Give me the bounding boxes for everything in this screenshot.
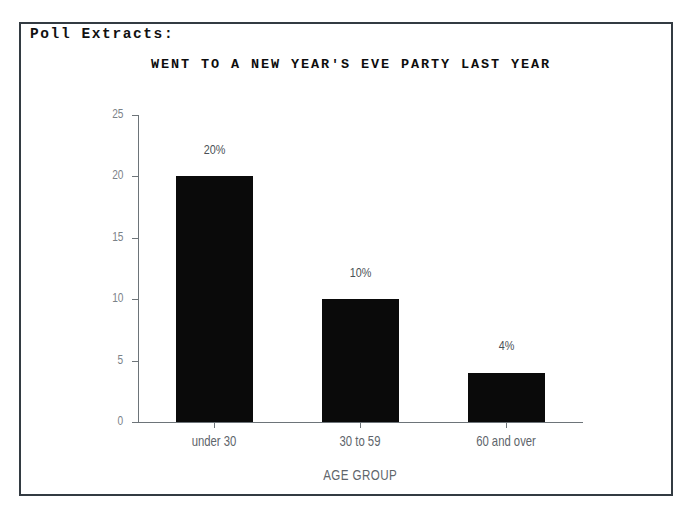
y-tick-label-15: 15 <box>112 229 123 244</box>
y-tick-label-0: 0 <box>117 413 123 428</box>
bar-under-30[interactable] <box>176 176 253 422</box>
y-tick-0: 0 <box>132 422 138 423</box>
x-tick-under-30 <box>214 422 215 428</box>
bar-value-30-to-59: 10% <box>330 265 392 280</box>
page-title: Poll Extracts: <box>30 26 174 42</box>
x-label-under-30: under 30 <box>159 433 268 449</box>
y-tick-5: 5 <box>132 361 138 362</box>
x-axis-title-text: AGE GROUP <box>324 467 398 483</box>
x-label-30-to-59: 30 to 59 <box>305 433 414 449</box>
x-label-60-and-over: 60 and over <box>451 433 560 449</box>
bar-value-60-and-over: 4% <box>476 338 538 353</box>
y-tick-25: 25 <box>132 115 138 116</box>
y-tick-15: 15 <box>132 238 138 239</box>
x-tick-60-and-over <box>506 422 507 428</box>
bar-value-under-30: 20% <box>184 142 246 157</box>
y-tick-label-25: 25 <box>112 106 123 121</box>
y-axis-line <box>138 115 139 422</box>
x-axis-title: AGE GROUP <box>138 467 583 483</box>
x-tick-30-to-59 <box>360 422 361 428</box>
y-tick-10: 10 <box>132 299 138 300</box>
y-tick-20: 20 <box>132 176 138 177</box>
y-tick-label-5: 5 <box>117 352 123 367</box>
bar-60-and-over[interactable] <box>468 373 545 422</box>
chart-title: WENT TO A NEW YEAR'S EVE PARTY LAST YEAR <box>0 57 688 72</box>
bar-30-to-59[interactable] <box>322 299 399 422</box>
y-tick-label-20: 20 <box>112 167 123 182</box>
y-tick-label-10: 10 <box>112 290 123 305</box>
bar-chart-plot-area: 0 5 10 15 20 25 20% 10% 4% under 30 30 t… <box>138 115 583 422</box>
